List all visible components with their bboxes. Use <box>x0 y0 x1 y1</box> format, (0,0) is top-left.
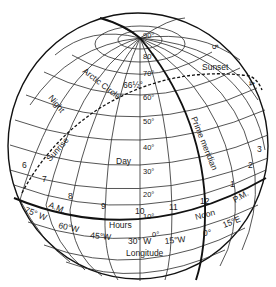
longitude-label: Longitude <box>126 248 164 258</box>
svg-text:20°: 20° <box>143 190 154 199</box>
svg-text:70°: 70° <box>143 69 154 78</box>
svg-text:0°: 0° <box>152 230 159 239</box>
svg-text:10°: 10° <box>143 212 154 221</box>
svg-text:1: 1 <box>230 179 235 189</box>
svg-text:30°: 30° <box>143 167 154 176</box>
svg-text:7: 7 <box>42 174 47 184</box>
hours-label: Hours <box>109 220 132 230</box>
svg-text:30° W: 30° W <box>128 236 151 246</box>
svg-text:80°: 80° <box>143 52 154 61</box>
svg-text:50°: 50° <box>143 117 154 126</box>
day-label: Day <box>116 156 132 166</box>
arctic-circle-value: 66½° <box>123 80 143 90</box>
svg-text:8: 8 <box>68 191 73 201</box>
svg-text:40°: 40° <box>143 143 154 152</box>
svg-text:90°: 90° <box>143 31 154 40</box>
svg-text:60°: 60° <box>143 93 154 102</box>
svg-text:11: 11 <box>169 202 178 212</box>
svg-text:0°: 0° <box>203 228 211 238</box>
svg-text:2: 2 <box>248 160 253 170</box>
svg-text:9: 9 <box>101 201 106 211</box>
svg-text:6: 6 <box>22 160 27 170</box>
svg-text:12: 12 <box>200 196 210 206</box>
svg-text:10: 10 <box>135 206 145 216</box>
svg-text:3: 3 <box>257 144 262 154</box>
sunset-label: Sunset <box>202 62 229 72</box>
globe-diagram: 90° 80° 70° 60° 50° 40° 30° 20° 10° 0° A… <box>0 0 276 287</box>
